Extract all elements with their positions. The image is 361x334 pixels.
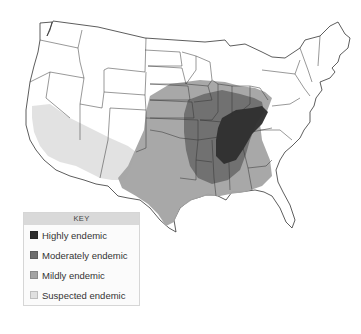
legend-label: Moderately endemic xyxy=(42,250,128,261)
legend-item-highly-endemic: Highly endemic xyxy=(24,225,139,245)
legend-item-mildly-endemic: Mildly endemic xyxy=(24,265,139,285)
swatch-suspected-endemic-icon xyxy=(30,291,38,299)
legend-label: Suspected endemic xyxy=(42,290,125,301)
legend-item-moderately-endemic: Moderately endemic xyxy=(24,245,139,265)
legend-item-suspected-endemic: Suspected endemic xyxy=(24,285,139,305)
map-legend: KEY Highly endemic Moderately endemic Mi… xyxy=(23,212,140,306)
legend-label: Highly endemic xyxy=(42,230,107,241)
legend-label: Mildly endemic xyxy=(42,270,105,281)
legend-title: KEY xyxy=(24,213,139,225)
swatch-moderately-endemic-icon xyxy=(30,251,38,259)
swatch-highly-endemic-icon xyxy=(30,231,38,239)
swatch-mildly-endemic-icon xyxy=(30,271,38,279)
